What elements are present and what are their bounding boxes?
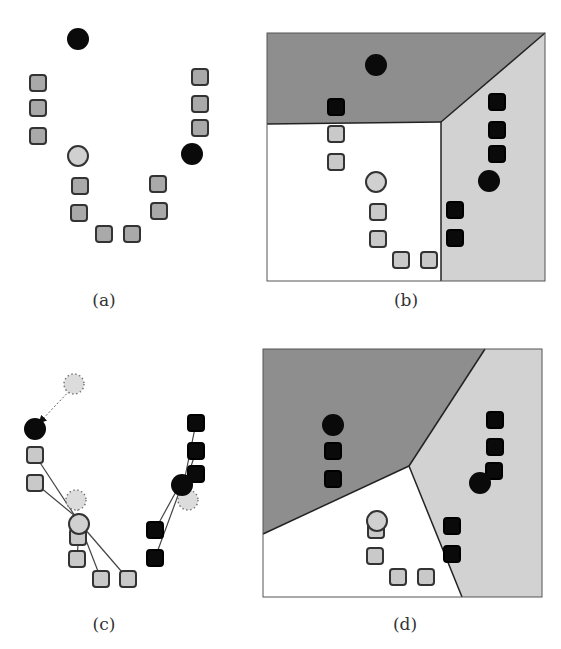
square-point-gray bbox=[192, 69, 208, 85]
centroid-circle-black bbox=[67, 28, 89, 50]
square-point-black bbox=[188, 443, 204, 459]
caption-a: (a) bbox=[92, 290, 115, 310]
square-point-black bbox=[447, 202, 463, 218]
square-point-light bbox=[393, 252, 409, 268]
square-point-black bbox=[188, 415, 204, 431]
prior-centroid-circle bbox=[64, 374, 84, 394]
panel-c bbox=[24, 374, 204, 587]
square-point-light bbox=[370, 204, 386, 220]
centroid-circle-light bbox=[366, 172, 386, 192]
centroid-circle-black bbox=[365, 54, 387, 76]
square-point-light bbox=[367, 548, 383, 564]
panel-d bbox=[263, 349, 542, 597]
square-point-gray bbox=[192, 96, 208, 112]
centroid-circle-light bbox=[68, 146, 88, 166]
square-point-black bbox=[444, 518, 460, 534]
square-point-light bbox=[418, 569, 434, 585]
square-point-gray bbox=[30, 128, 46, 144]
square-point-gray bbox=[124, 226, 140, 242]
square-point-black bbox=[487, 439, 503, 455]
caption-b: (b) bbox=[394, 290, 418, 310]
caption-c: (c) bbox=[93, 614, 116, 634]
centroid-circle-light bbox=[69, 514, 89, 534]
square-point-light bbox=[390, 569, 406, 585]
square-point-light bbox=[120, 571, 136, 587]
square-point-black bbox=[444, 546, 460, 562]
square-point-black bbox=[489, 146, 505, 162]
square-point-gray bbox=[30, 100, 46, 116]
figure-canvas bbox=[0, 0, 561, 649]
panel-b bbox=[267, 33, 545, 281]
square-point-black bbox=[489, 94, 505, 110]
centroid-circle-black bbox=[181, 143, 203, 165]
square-point-light bbox=[27, 447, 43, 463]
centroid-circle-black bbox=[469, 472, 491, 494]
square-point-gray bbox=[71, 205, 87, 221]
square-point-gray bbox=[150, 176, 166, 192]
centroid-circle-light bbox=[367, 511, 387, 531]
square-point-gray bbox=[96, 226, 112, 242]
square-point-gray bbox=[30, 75, 46, 91]
square-point-light bbox=[328, 154, 344, 170]
panel-a bbox=[30, 28, 208, 242]
square-point-light bbox=[328, 126, 344, 142]
square-point-light bbox=[27, 475, 43, 491]
centroid-circle-black bbox=[24, 418, 46, 440]
square-point-gray bbox=[72, 178, 88, 194]
centroid-circle-black bbox=[171, 474, 193, 496]
square-point-light bbox=[421, 252, 437, 268]
square-point-black bbox=[147, 522, 163, 538]
square-point-light bbox=[93, 571, 109, 587]
square-point-black bbox=[487, 412, 503, 428]
prior-centroid-circle bbox=[66, 490, 86, 510]
square-point-black bbox=[325, 471, 341, 487]
centroid-circle-black bbox=[322, 414, 344, 436]
square-point-gray bbox=[192, 120, 208, 136]
square-point-light bbox=[69, 551, 85, 567]
square-point-light bbox=[370, 231, 386, 247]
square-point-black bbox=[147, 550, 163, 566]
square-point-black bbox=[328, 99, 344, 115]
caption-d: (d) bbox=[393, 614, 417, 634]
movement-arrow bbox=[40, 388, 72, 422]
square-point-black bbox=[489, 122, 505, 138]
square-point-black bbox=[325, 443, 341, 459]
square-point-black bbox=[447, 230, 463, 246]
square-point-gray bbox=[151, 203, 167, 219]
centroid-circle-black bbox=[478, 170, 500, 192]
